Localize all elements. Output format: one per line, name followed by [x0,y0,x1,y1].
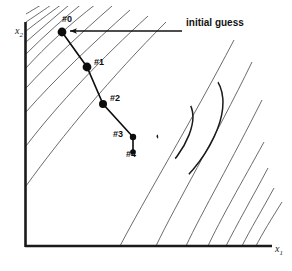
point-label-3: #3 [113,130,123,139]
search-path [58,28,137,155]
point-label-4: #4 [126,150,136,159]
y-axis-label: x2 [15,26,23,39]
outer-contours-upper-left [26,0,166,186]
point-label-1: #1 [94,58,104,67]
iteration-point-3 [130,134,136,140]
y-axis-label-subscript: 2 [19,31,23,39]
outer-contours-lower-right [120,40,282,246]
figure-container: x2 x1 #0 #1 #2 #3 #4 initial guess [0,0,292,271]
iteration-point-1 [83,63,92,72]
axes [25,22,272,247]
initial-guess-annotation: initial guess [186,18,244,28]
x-axis-label-subscript: 1 [279,249,283,257]
point-label-0: #0 [62,15,72,24]
x-axis-label: x1 [275,244,283,257]
iteration-point-0 [58,28,67,37]
point-label-2: #2 [110,94,120,103]
iteration-point-2 [99,100,107,108]
contour-plot-svg [0,0,292,271]
